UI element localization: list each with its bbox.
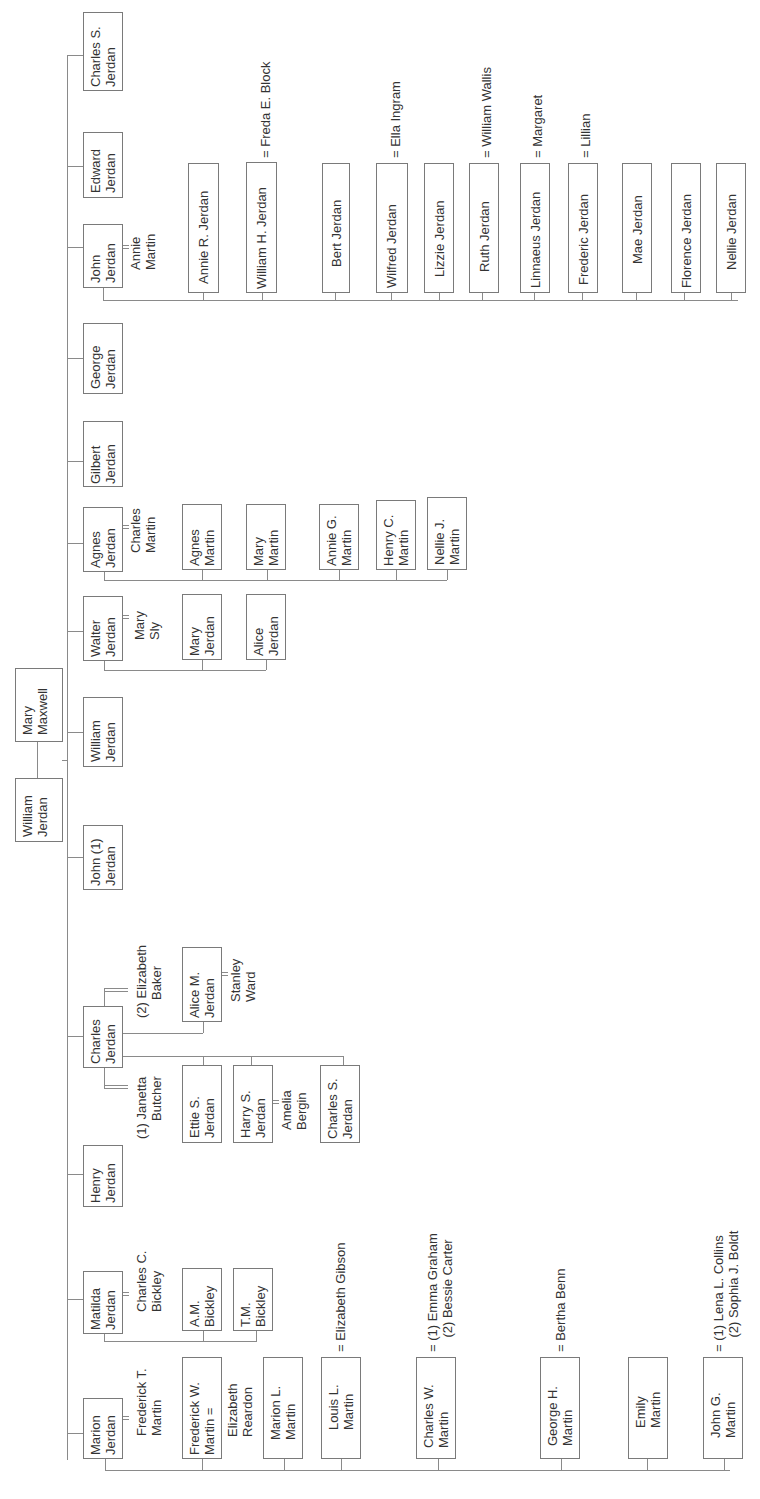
- person-box-annie-g-martin: Annie G. Martin: [319, 504, 359, 570]
- marriage-symbol: [104, 991, 128, 992]
- spouse-name: = (1) Emma Graham (2) Bessie Carter: [425, 1233, 455, 1352]
- descent-line-2: [123, 1033, 203, 1034]
- branch: [67, 247, 83, 248]
- branch: [67, 857, 83, 858]
- spouse-name: Charles C. Bickley: [134, 1251, 164, 1312]
- branch: [561, 1459, 562, 1470]
- person-box-annie-r-jerdan: Annie R. Jerdan: [188, 163, 219, 293]
- grandchildren-bar: [104, 670, 266, 671]
- person-box-george-h-martin: George H. Martin: [540, 1357, 580, 1459]
- spouse-name: Elizabeth Reardon: [225, 1384, 255, 1437]
- person-box-wilfred-jerdan: Wilfred Jerdan: [376, 163, 408, 293]
- person-name: Lizzie Jerdan: [432, 200, 447, 277]
- spouse-name: = Ella Ingram: [388, 81, 403, 158]
- branch: [482, 293, 483, 300]
- person-box-ruth-jerdan: Ruth Jerdan: [469, 163, 499, 293]
- person-box-bert-jerdan: Bert Jerdan: [322, 163, 350, 293]
- person-box-matilda-jerdan: Matilda Jerdan: [83, 1271, 123, 1334]
- branch: [636, 293, 637, 300]
- branch: [266, 660, 267, 670]
- person-box-charles-s-jerdan: Charles S. Jerdan: [83, 12, 123, 91]
- branch: [67, 1174, 83, 1175]
- person-box-agnes-martin: Agnes Martin: [182, 504, 222, 570]
- branch: [396, 570, 397, 580]
- spouse-name: = Freda E. Block: [258, 62, 273, 158]
- branch: [339, 570, 340, 580]
- person-name: Frederick W. Martin =: [187, 1382, 217, 1455]
- person-name: Annie G. Martin: [324, 515, 354, 566]
- person-box-william-jerdan-child: William Jerdan: [83, 697, 123, 767]
- branch: [731, 293, 732, 300]
- branch: [534, 293, 535, 300]
- spouse-name: Stanley Ward: [228, 959, 258, 1002]
- person-name: Frederic Jerdan: [576, 194, 591, 285]
- branch: [341, 1459, 342, 1470]
- person-name: Mary Jerdan: [187, 616, 217, 656]
- branch: [203, 1056, 204, 1065]
- branch: [284, 1459, 285, 1470]
- person-box-nellie-j-martin: Nellie J. Martin: [427, 497, 467, 570]
- person-name: George Jerdan: [88, 346, 118, 389]
- person-name: Harry S. Jerdan: [238, 1090, 268, 1138]
- person-name: Bert Jerdan: [329, 200, 344, 267]
- descent-line: [104, 1334, 105, 1341]
- branch: [262, 293, 263, 300]
- spouse-name: Mary Sly: [132, 611, 162, 640]
- branch: [202, 1459, 203, 1470]
- spouse-name: Amelia Bergin: [279, 1090, 309, 1130]
- person-box-frederick-w-martin: Frederick W. Martin =: [182, 1357, 222, 1459]
- marriage-symbol: [123, 618, 129, 619]
- branch: [343, 1056, 344, 1065]
- branch: [251, 1056, 252, 1065]
- person-name: Florence Jerdan: [679, 194, 694, 288]
- branch: [67, 55, 83, 56]
- spouse-name: = (1) Lena L. Collins (2) Sophia J. Bold…: [711, 1231, 741, 1352]
- marriage-symbol: [104, 988, 128, 989]
- person-name: Alice M. Jerdan: [187, 972, 217, 1018]
- branch: [582, 293, 583, 300]
- person-box-edward-jerdan: Edward Jerdan: [83, 132, 123, 198]
- person-box-alice-jerdan: Alice Jerdan: [246, 594, 286, 660]
- descent-line: [104, 572, 105, 580]
- person-name: Charles W. Martin: [421, 1384, 451, 1448]
- descent-line-1: [123, 1056, 343, 1057]
- person-name: Charles S. Jerdan: [88, 26, 118, 87]
- person-name: Henry Jerdan: [88, 1163, 118, 1203]
- person-name: Matilda Jerdan: [88, 1288, 118, 1330]
- person-name: Agnes Martin: [187, 529, 217, 566]
- person-name: Marion L. Martin: [268, 1386, 298, 1440]
- person-name: Nellie J. Martin: [432, 519, 462, 565]
- person-name: George H. Martin: [545, 1386, 575, 1446]
- descent-line: [103, 288, 104, 300]
- branch: [67, 358, 83, 359]
- branch: [447, 570, 448, 580]
- marriage-symbol: [123, 1295, 129, 1296]
- person-box-harry-s-jerdan: Harry S. Jerdan: [233, 1065, 273, 1143]
- spouse-name: Annie Martin: [128, 234, 158, 270]
- spouse-name: = Margaret: [530, 95, 545, 158]
- person-box-charles-w-martin: Charles W. Martin: [416, 1357, 456, 1459]
- person-name: A.M. Bickley: [187, 1286, 217, 1327]
- branch: [67, 461, 83, 462]
- person-name: Agnes Jerdan: [88, 528, 118, 568]
- person-box-ettie-s-jerdan: Ettie S. Jerdan: [182, 1065, 222, 1143]
- person-name: Wilfred Jerdan: [384, 204, 399, 288]
- person-name: Mary Martin: [251, 530, 281, 566]
- person-name: Alice Jerdan: [251, 616, 281, 656]
- children-spine: [67, 55, 68, 1459]
- spouse-name: Charles Martin: [128, 508, 158, 553]
- grandchildren-bar: [104, 580, 447, 581]
- branch: [67, 732, 83, 733]
- spouse-name-2: (2) Elizabeth Baker: [134, 945, 164, 1018]
- branch: [439, 293, 440, 300]
- branch: [67, 166, 83, 167]
- person-name: Henry C. Martin: [381, 515, 411, 566]
- branch: [203, 1022, 204, 1033]
- branch: [267, 570, 268, 580]
- person-box-john-g-martin: John G. Martin: [703, 1357, 743, 1459]
- person-name: Nellie Jerdan: [724, 194, 739, 270]
- bottom-spine-connector: [67, 1459, 68, 1460]
- person-box-florence-jerdan: Florence Jerdan: [671, 163, 701, 293]
- person-box-tm-bickley: T.M. Bickley: [233, 1268, 273, 1331]
- grandchildren-bar: [104, 1341, 257, 1342]
